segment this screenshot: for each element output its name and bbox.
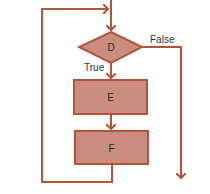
flowchart-diagram: D False True E F xyxy=(0,0,210,194)
process-label-f: F xyxy=(108,143,114,154)
false-label: False xyxy=(150,34,175,45)
process-node-e: E xyxy=(74,80,147,114)
decision-node-d: D xyxy=(79,32,142,63)
true-label: True xyxy=(84,62,105,73)
decision-label-d: D xyxy=(107,42,114,53)
process-label-e: E xyxy=(107,92,114,103)
process-node-f: F xyxy=(75,131,148,164)
true-branch-arrow: True xyxy=(84,62,111,78)
